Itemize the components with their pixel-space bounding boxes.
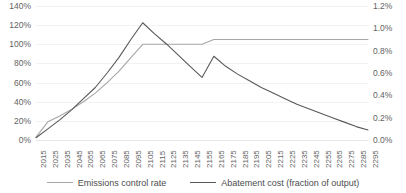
y-axis-left-tick: 140% <box>9 2 31 11</box>
y-axis-right-tick: 1.0% <box>373 24 392 33</box>
plot-area <box>36 6 368 140</box>
legend-item-abatement-cost: Abatement cost (fraction of output) <box>190 178 359 188</box>
x-axis-tick: 2185 <box>242 150 250 168</box>
y-axis-left-tick: 120% <box>9 21 31 30</box>
x-axis-tick: 2175 <box>230 150 238 168</box>
chart-legend: Emissions control rate Abatement cost (f… <box>0 172 406 193</box>
x-axis-tick: 2055 <box>87 150 95 168</box>
x-axis-tick: 2155 <box>206 150 214 168</box>
y-axis-left-tick: 0% <box>19 136 31 145</box>
x-axis-tick: 2125 <box>170 150 178 168</box>
x-axis-tick: 2045 <box>76 150 84 168</box>
y-axis-left-tick: 100% <box>9 40 31 49</box>
y-axis-right-tick: 0.6% <box>373 69 392 78</box>
x-axis-tick: 2215 <box>277 150 285 168</box>
x-axis-tick: 2225 <box>289 150 297 168</box>
y-axis-right-tick: 0.0% <box>373 136 392 145</box>
x-axis: 2015202520352045205520652075208520952105… <box>36 141 368 171</box>
chart-container: 140%120%100%80%60%40%20%0% 1.2%1.0%0.8%0… <box>0 0 406 193</box>
x-axis-tick: 2265 <box>336 150 344 168</box>
legend-line-icon <box>47 182 73 183</box>
y-axis-left-tick: 60% <box>14 78 31 87</box>
y-axis-right-tick: 0.4% <box>373 91 392 100</box>
x-axis-tick: 2195 <box>253 150 261 168</box>
x-axis-tick: 2295 <box>372 150 380 168</box>
y-axis-left-tick: 80% <box>14 59 31 68</box>
x-axis-tick: 2085 <box>123 150 131 168</box>
x-axis-tick: 2165 <box>218 150 226 168</box>
y-axis-left-tick: 40% <box>14 97 31 106</box>
legend-item-emissions-control-rate: Emissions control rate <box>47 178 167 188</box>
x-axis-tick: 2245 <box>313 150 321 168</box>
legend-line-icon <box>190 182 216 183</box>
x-axis-tick: 2105 <box>147 150 155 168</box>
x-axis-tick: 2205 <box>265 150 273 168</box>
y-axis-right-tick: 0.2% <box>373 113 392 122</box>
x-axis-tick: 2025 <box>52 150 60 168</box>
y-axis-right: 1.2%1.0%0.8%0.6%0.4%0.2%0.0% <box>370 0 406 146</box>
x-axis-tick: 2075 <box>111 150 119 168</box>
chart-svg <box>36 6 368 140</box>
x-axis-tick: 2065 <box>99 150 107 168</box>
x-axis-tick: 2015 <box>40 150 48 168</box>
x-axis-tick: 2255 <box>325 150 333 168</box>
x-axis-tick: 2135 <box>182 150 190 168</box>
x-axis-tick: 2115 <box>159 151 167 168</box>
y-axis-right-tick: 0.8% <box>373 46 392 55</box>
legend-label: Emissions control rate <box>78 178 167 188</box>
y-axis-left-tick: 20% <box>14 116 31 125</box>
series-line-emissions-control-rate <box>36 40 368 138</box>
y-axis-right-tick: 1.2% <box>373 2 392 11</box>
y-axis-left: 140%120%100%80%60%40%20%0% <box>0 0 33 146</box>
x-axis-tick: 2145 <box>194 150 202 168</box>
legend-label: Abatement cost (fraction of output) <box>221 178 359 188</box>
x-axis-tick: 2095 <box>135 150 143 168</box>
x-axis-tick: 2275 <box>348 150 356 168</box>
x-axis-tick: 2285 <box>360 150 368 168</box>
x-axis-tick: 2235 <box>301 150 309 168</box>
x-axis-tick: 2035 <box>64 150 72 168</box>
